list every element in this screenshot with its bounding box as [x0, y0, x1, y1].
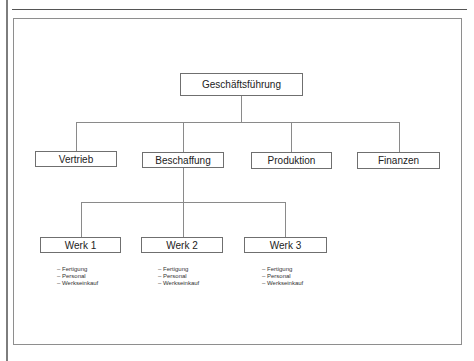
- function-item: – Werkseinkauf: [262, 280, 303, 287]
- function-item: – Personal: [262, 273, 303, 280]
- werk-3-functions: – Fertigung – Personal – Werkseinkauf: [262, 266, 303, 288]
- function-item: – Personal: [158, 273, 199, 280]
- node-label: Werk 2: [166, 240, 198, 251]
- function-item: – Fertigung: [262, 266, 303, 273]
- connector-werk-1: [81, 202, 82, 237]
- node-label: Werk 1: [65, 240, 97, 251]
- connector-werk-3: [285, 202, 286, 237]
- function-item: – Fertigung: [57, 266, 98, 273]
- connector-beschaffung: [183, 122, 184, 152]
- node-label: Vertrieb: [59, 154, 93, 165]
- page-left-rule: [6, 0, 8, 361]
- node-label: Beschaffung: [155, 155, 210, 166]
- node-beschaffung: Beschaffung: [142, 152, 224, 168]
- function-item: – Werkseinkauf: [158, 280, 199, 287]
- function-item: – Personal: [57, 273, 98, 280]
- connector-finanzen: [399, 122, 400, 152]
- node-produktion: Produktion: [251, 152, 332, 169]
- node-geschaeftsfuehrung: Geschäftsführung: [180, 73, 303, 96]
- diagram-frame: [13, 18, 462, 345]
- node-label: Produktion: [268, 155, 316, 166]
- werk-2-functions: – Fertigung – Personal – Werkseinkauf: [158, 266, 199, 288]
- node-werk-1: Werk 1: [40, 237, 121, 253]
- node-label: Werk 3: [270, 240, 302, 251]
- werk-1-functions: – Fertigung – Personal – Werkseinkauf: [57, 266, 98, 288]
- node-vertrieb: Vertrieb: [35, 151, 117, 167]
- function-item: – Fertigung: [158, 266, 199, 273]
- node-label: Finanzen: [378, 155, 419, 166]
- node-werk-2: Werk 2: [141, 237, 223, 253]
- page-top-rule: [12, 9, 467, 10]
- node-werk-3: Werk 3: [244, 237, 327, 253]
- connector-produktion: [291, 122, 292, 152]
- node-label: Geschäftsführung: [202, 79, 281, 90]
- connector-vertrieb: [76, 122, 77, 151]
- connector-plants-bus: [81, 202, 286, 203]
- function-item: – Werkseinkauf: [57, 280, 98, 287]
- node-finanzen: Finanzen: [357, 152, 440, 169]
- connector-departments-bus: [76, 122, 400, 123]
- connector-root-down: [241, 96, 242, 123]
